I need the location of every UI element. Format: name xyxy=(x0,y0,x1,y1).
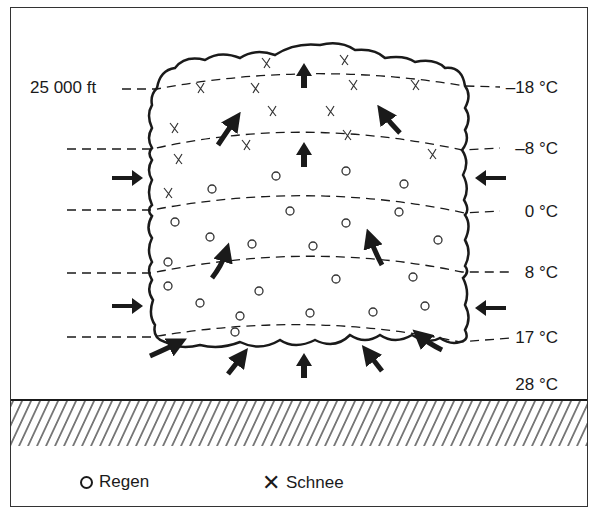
temp-label-minus18: –18 °C xyxy=(506,79,558,96)
legend-snow-label: Schnee xyxy=(286,473,344,493)
temp-label-28: 28 °C xyxy=(515,376,558,393)
snow-cross-icon: ✕ xyxy=(262,472,280,494)
temp-label-8: 8 °C xyxy=(525,264,558,281)
temp-label-0: 0 °C xyxy=(525,203,558,220)
legend-snow: ✕ Schnee xyxy=(262,472,344,494)
legend-rain-label: Regen xyxy=(99,472,149,492)
temp-label-minus8: –8 °C xyxy=(515,140,558,157)
ground-hatching xyxy=(11,401,587,446)
rain-circle-icon xyxy=(80,476,93,489)
temp-label-17: 17 °C xyxy=(515,329,558,346)
legend-rain: Regen xyxy=(80,472,149,492)
altitude-label: 25 000 ft xyxy=(30,79,96,96)
